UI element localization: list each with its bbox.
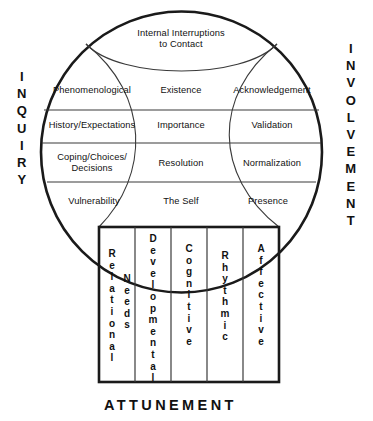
cell-r1-middle: Existence [144, 85, 218, 96]
vchar: R [105, 248, 119, 260]
vchar: t [182, 301, 196, 313]
vchar: n [105, 329, 119, 341]
vchar: e [182, 336, 196, 348]
vchar: v [254, 324, 268, 336]
vchar: a [105, 283, 119, 295]
axis-char: O [341, 92, 361, 109]
vchar: o [146, 291, 160, 303]
vchar: l [146, 372, 160, 384]
axis-char: T [341, 212, 361, 229]
vchar: o [182, 255, 196, 267]
header-internal-interruptions: Internal Interruptions to Contact [111, 28, 251, 50]
header-line-2: to Contact [111, 39, 251, 50]
vchar: f [254, 255, 268, 267]
vchar: i [105, 306, 119, 318]
axis-char: L [341, 109, 361, 126]
vchar: C [182, 243, 196, 255]
diagram-canvas: Internal Interruptions to Contact Phenom… [0, 0, 373, 421]
vchar: s [120, 319, 134, 331]
cell-r3-left-line-2: Decisions [44, 163, 140, 174]
vchar: a [105, 341, 119, 353]
axis-char: N [341, 57, 361, 74]
vchar: c [254, 289, 268, 301]
attunement-col-2-primary: Developmental [146, 233, 160, 384]
cell-r4-right: Presence [222, 196, 314, 207]
cell-r4-middle: The Self [144, 196, 218, 207]
axis-char: M [341, 160, 361, 177]
vchar: e [146, 268, 160, 280]
axis-char: V [341, 126, 361, 143]
vchar: a [146, 361, 160, 373]
vchar: l [105, 352, 119, 364]
vchar: v [146, 256, 160, 268]
axis-char: R [12, 154, 32, 171]
vchar: y [218, 273, 232, 285]
vchar: m [218, 308, 232, 320]
vchar: i [254, 313, 268, 325]
vchar: h [218, 296, 232, 308]
cell-r2-middle: Importance [144, 120, 218, 131]
vchar: l [146, 279, 160, 291]
axis-char: U [12, 120, 32, 137]
vchar: R [218, 250, 232, 262]
vchar: n [182, 278, 196, 290]
vchar: e [105, 260, 119, 272]
vchar: t [218, 285, 232, 297]
vchar: p [146, 303, 160, 315]
diagram-linework [0, 0, 373, 421]
vchar: e [254, 278, 268, 290]
axis-char: E [341, 143, 361, 160]
left-axis-label-inquiry: INQUIRY [12, 68, 32, 188]
vchar: N [120, 273, 134, 285]
axis-char: V [341, 74, 361, 91]
vchar: e [146, 326, 160, 338]
attunement-col-5-primary: Affective [254, 243, 268, 347]
attunement-col-4-primary: Rhythmic [218, 250, 232, 343]
axis-char: E [341, 178, 361, 195]
vchar: e [120, 285, 134, 297]
cell-r3-right: Normalization [222, 158, 322, 169]
axis-char: I [12, 68, 32, 85]
axis-char: N [341, 195, 361, 212]
right-axis-label-involvement: INVOLVEMENT [341, 40, 361, 229]
vchar: o [105, 318, 119, 330]
vchar: t [105, 294, 119, 306]
vchar: c [218, 331, 232, 343]
vchar: h [218, 262, 232, 274]
axis-char: N [12, 85, 32, 102]
cell-r1-left: Phenomenological [44, 85, 140, 96]
vchar: t [254, 301, 268, 313]
cell-r2-right: Validation [222, 120, 322, 131]
cell-r3-left: Coping/Choices/ Decisions [44, 152, 140, 174]
cell-r3-left-line-1: Coping/Choices/ [44, 152, 140, 163]
bottom-axis-label-attunement: ATTUNEMENT [104, 397, 237, 413]
vchar: m [146, 314, 160, 326]
vchar: i [182, 289, 196, 301]
axis-char: I [12, 137, 32, 154]
vchar: A [254, 243, 268, 255]
vchar: g [182, 266, 196, 278]
cell-r2-left: History/Expectations [42, 120, 142, 131]
cell-r1-right: Acknowledgement [222, 85, 322, 96]
vchar: n [146, 337, 160, 349]
cell-r3-middle: Resolution [144, 158, 218, 169]
vchar: e [254, 336, 268, 348]
vchar: l [105, 271, 119, 283]
vchar: t [146, 349, 160, 361]
cell-r4-left: Vulnerability [48, 196, 140, 207]
header-line-1: Internal Interruptions [111, 28, 251, 39]
axis-char: Y [12, 171, 32, 188]
attunement-col-1-secondary: Needs [120, 273, 134, 331]
vchar: e [120, 296, 134, 308]
vchar: e [146, 245, 160, 257]
attunement-col-1-primary: Relational [105, 248, 119, 364]
vchar: D [146, 233, 160, 245]
vchar: v [182, 324, 196, 336]
axis-char: Q [12, 102, 32, 119]
attunement-col-3-primary: Cognitive [182, 243, 196, 347]
vchar: f [254, 266, 268, 278]
axis-char: I [341, 40, 361, 57]
vchar: i [182, 313, 196, 325]
vchar: d [120, 308, 134, 320]
vchar: i [218, 320, 232, 332]
